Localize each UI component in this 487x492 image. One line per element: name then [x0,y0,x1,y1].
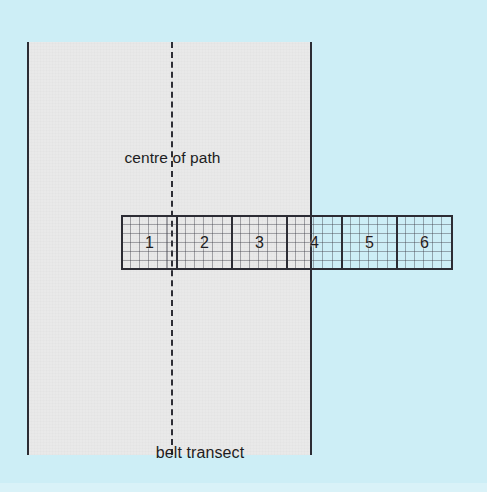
quadrat-3-label: 3 [255,235,264,251]
quadrat-6-label: 6 [420,235,429,251]
page-bottom-band [0,483,487,492]
quadrat-6: 6 [398,217,451,268]
quadrat-5: 5 [343,217,398,268]
quadrat-2: 2 [178,217,233,268]
quadrat-1: 1 [123,217,178,268]
quadrat-4: 4 [288,217,343,268]
belt-transect-caption: belt transect [0,444,400,462]
quadrat-3: 3 [233,217,288,268]
centre-of-path-label: centre of path [0,149,345,167]
quadrat-4-label: 4 [310,235,319,251]
quadrat-1-label: 1 [145,235,154,251]
belt-transect-strip: 1 2 3 4 5 6 [121,215,453,270]
path-left-edge-line [27,42,29,455]
quadrat-2-label: 2 [200,235,209,251]
belt-transect-diagram: centre of path 1 2 3 4 5 6 belt transect [0,0,487,492]
quadrat-5-label: 5 [365,235,374,251]
